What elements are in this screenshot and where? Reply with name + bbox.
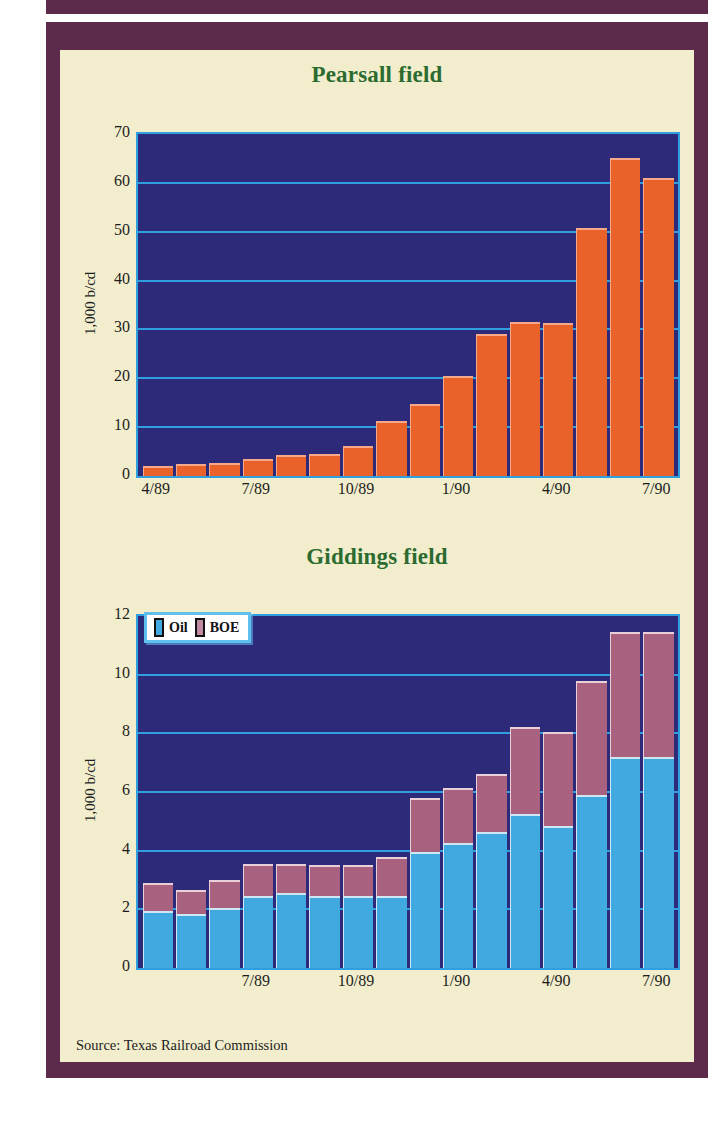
giddings-bars bbox=[138, 616, 678, 968]
bar bbox=[443, 788, 473, 968]
bar-segment-boe bbox=[510, 727, 540, 814]
bar-segment-oil bbox=[510, 814, 540, 968]
pearsall-plot-area bbox=[136, 132, 680, 478]
bar bbox=[410, 404, 440, 476]
bar bbox=[510, 322, 540, 476]
bar-segment-boe bbox=[309, 865, 339, 896]
x-tick-label: 4/89 bbox=[141, 480, 169, 498]
bar bbox=[510, 727, 540, 968]
x-tick-label: 1/90 bbox=[442, 972, 470, 990]
bar bbox=[176, 464, 206, 476]
bar bbox=[610, 632, 640, 968]
bar bbox=[276, 864, 306, 968]
legend-item-oil: Oil bbox=[154, 618, 188, 637]
bar-segment-oil bbox=[576, 795, 606, 968]
bar bbox=[276, 455, 306, 476]
bar-segment bbox=[343, 446, 373, 476]
giddings-plot-area bbox=[136, 614, 680, 970]
giddings-title-text: Giddings field bbox=[60, 544, 694, 570]
bar-segment-boe bbox=[376, 857, 406, 897]
bar bbox=[643, 178, 673, 476]
bar-segment bbox=[209, 463, 239, 476]
pearsall-title: Pearsall field bbox=[60, 62, 694, 96]
bar-segment bbox=[309, 454, 339, 476]
bar bbox=[643, 632, 673, 968]
x-tick-label: 7/90 bbox=[642, 972, 670, 990]
y-tick-label: 12 bbox=[90, 605, 130, 623]
bar bbox=[176, 890, 206, 968]
bar-segment-boe bbox=[410, 798, 440, 852]
figure-panel: Pearsall field 1,000 b/cd 01020304050607… bbox=[60, 50, 694, 1062]
bar-segment-oil bbox=[309, 896, 339, 968]
bar-segment-boe bbox=[476, 774, 506, 831]
legend-label-boe: BOE bbox=[210, 620, 240, 636]
bar bbox=[243, 864, 273, 968]
bar bbox=[476, 774, 506, 968]
giddings-chart: 1,000 b/cd 024681012 7/8910/891/904/907/… bbox=[60, 584, 694, 1014]
bar bbox=[343, 446, 373, 476]
bar-segment bbox=[543, 323, 573, 476]
bar bbox=[543, 323, 573, 476]
bar bbox=[476, 334, 506, 476]
bar-segment-boe bbox=[243, 864, 273, 896]
bar-segment-oil bbox=[143, 911, 173, 968]
bar bbox=[143, 466, 173, 476]
bar bbox=[343, 865, 373, 968]
bar bbox=[209, 463, 239, 476]
bar bbox=[543, 732, 573, 968]
bar-segment bbox=[576, 228, 606, 476]
bar-segment bbox=[610, 158, 640, 476]
bar-segment bbox=[510, 322, 540, 476]
bar-segment bbox=[143, 466, 173, 476]
y-tick-label: 2 bbox=[90, 898, 130, 916]
pearsall-title-text: Pearsall field bbox=[60, 62, 694, 88]
legend-label-oil: Oil bbox=[169, 620, 188, 636]
bar-segment-oil bbox=[243, 896, 273, 968]
bar-segment-boe bbox=[176, 890, 206, 913]
bar-segment-oil bbox=[610, 757, 640, 968]
bar-segment bbox=[176, 464, 206, 476]
figure-page: Pearsall field 1,000 b/cd 01020304050607… bbox=[0, 0, 724, 1138]
y-tick-label: 60 bbox=[90, 172, 130, 190]
y-tick-label: 30 bbox=[90, 318, 130, 336]
top-rule-decoration bbox=[46, 0, 708, 14]
y-tick-label: 10 bbox=[90, 416, 130, 434]
y-tick-label: 10 bbox=[90, 664, 130, 682]
y-tick-label: 0 bbox=[90, 465, 130, 483]
bar-segment-oil bbox=[543, 826, 573, 968]
y-tick-label: 4 bbox=[90, 840, 130, 858]
bar-segment-boe bbox=[343, 865, 373, 896]
y-tick-label: 0 bbox=[90, 957, 130, 975]
bar-segment bbox=[476, 334, 506, 476]
bar-segment-boe bbox=[276, 864, 306, 893]
x-tick-label: 10/89 bbox=[338, 972, 374, 990]
bar bbox=[376, 857, 406, 968]
bar bbox=[309, 865, 339, 968]
bar-segment bbox=[276, 455, 306, 476]
bar-segment-boe bbox=[543, 732, 573, 826]
bar bbox=[410, 798, 440, 968]
x-tick-label: 1/90 bbox=[442, 480, 470, 498]
bar-segment bbox=[376, 421, 406, 476]
x-tick-label: 7/89 bbox=[242, 972, 270, 990]
y-tick-label: 50 bbox=[90, 221, 130, 239]
bar-segment-oil bbox=[276, 893, 306, 968]
bar bbox=[376, 421, 406, 476]
giddings-legend: Oil BOE bbox=[144, 612, 251, 643]
x-tick-label: 7/89 bbox=[242, 480, 270, 498]
bar-segment bbox=[443, 376, 473, 476]
pearsall-chart: 1,000 b/cd 010203040506070 4/897/8910/89… bbox=[60, 102, 694, 522]
bar-segment-oil bbox=[209, 908, 239, 968]
bar-segment-oil bbox=[443, 843, 473, 968]
bar-segment-oil bbox=[410, 852, 440, 968]
bar-segment-oil bbox=[376, 896, 406, 968]
bar-segment-oil bbox=[643, 757, 673, 968]
bar bbox=[576, 228, 606, 476]
giddings-title: Giddings field bbox=[60, 544, 694, 578]
bar bbox=[309, 454, 339, 476]
y-tick-label: 8 bbox=[90, 722, 130, 740]
bar-segment bbox=[643, 178, 673, 476]
bar-segment-boe bbox=[209, 880, 239, 908]
bar-segment-oil bbox=[476, 832, 506, 968]
bar bbox=[576, 681, 606, 968]
